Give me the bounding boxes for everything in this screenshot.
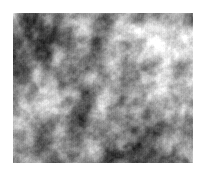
noise-texture-canvas bbox=[13, 13, 193, 163]
noise-texture-patch bbox=[13, 13, 193, 163]
image-canvas bbox=[0, 0, 206, 176]
